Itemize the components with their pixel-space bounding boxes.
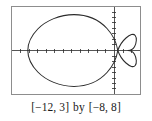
graph-figure: [−12, 3] by [−8, 8]: [0, 0, 152, 121]
plot-svg: [12, 7, 140, 94]
caption-x-window: [−12, 3]: [31, 101, 69, 113]
caption-y-window: [−8, 8]: [89, 101, 121, 113]
calculator-screen: [11, 6, 141, 95]
caption-connector: by: [69, 101, 89, 113]
viewing-window-caption: [−12, 3] by [−8, 8]: [0, 99, 152, 115]
